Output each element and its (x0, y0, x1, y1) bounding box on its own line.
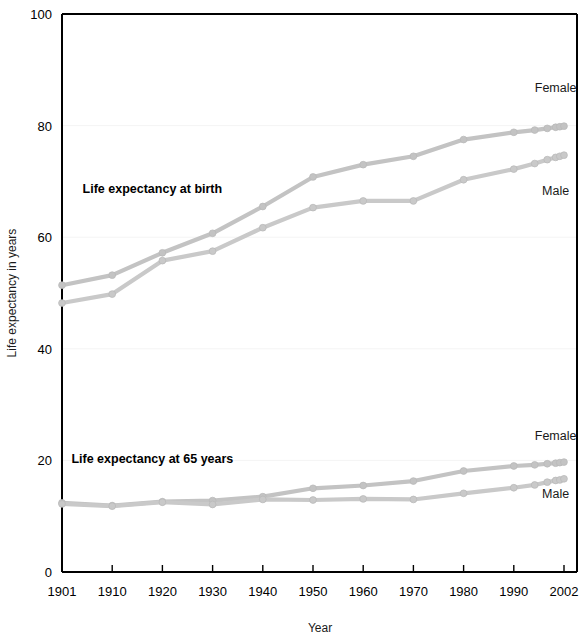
data-point (310, 204, 317, 211)
data-point (510, 484, 517, 491)
x-tick-label: 1940 (248, 584, 277, 599)
y-tick-label: 40 (38, 342, 52, 357)
data-point (460, 136, 467, 143)
data-point (561, 123, 568, 130)
chart-background (0, 0, 586, 641)
data-point (159, 257, 166, 264)
series-label-age65-male: Male (542, 487, 569, 501)
data-point (544, 479, 551, 486)
data-point (59, 282, 66, 289)
x-tick-label: 1950 (299, 584, 328, 599)
x-tick-label: 1920 (148, 584, 177, 599)
data-point (360, 496, 367, 503)
data-point (109, 503, 116, 510)
y-tick-label: 100 (30, 7, 52, 22)
y-tick-label: 60 (38, 230, 52, 245)
series-label-age65-female: Female (535, 429, 577, 443)
data-point (531, 160, 538, 167)
x-tick-label: 2002 (550, 584, 579, 599)
x-tick-label: 1980 (449, 584, 478, 599)
data-point (259, 496, 266, 503)
x-tick-label: 1960 (349, 584, 378, 599)
data-point (159, 249, 166, 256)
y-tick-label: 20 (38, 453, 52, 468)
data-point (410, 198, 417, 205)
data-point (410, 478, 417, 485)
life-expectancy-chart: 020406080100 190119101920193019401950196… (0, 0, 586, 641)
data-point (510, 129, 517, 136)
x-tick-label: 1970 (399, 584, 428, 599)
data-point (561, 152, 568, 159)
data-point (544, 460, 551, 467)
data-point (544, 156, 551, 163)
x-tick-label: 1990 (499, 584, 528, 599)
x-axis-title: Year (308, 621, 332, 635)
data-point (59, 300, 66, 307)
data-point (510, 463, 517, 470)
chart-canvas: 020406080100 190119101920193019401950196… (0, 0, 586, 641)
data-point (561, 475, 568, 482)
data-point (209, 248, 216, 255)
data-point (159, 499, 166, 506)
data-point (109, 272, 116, 279)
data-point (531, 482, 538, 489)
data-point (259, 203, 266, 210)
data-point (410, 153, 417, 160)
x-tick-label: 1930 (198, 584, 227, 599)
data-point (209, 230, 216, 237)
annotation-birth-group: Life expectancy at birth (83, 182, 223, 196)
annotation-age65-group: Life expectancy at 65 years (71, 452, 233, 466)
data-point (544, 125, 551, 132)
data-point (310, 174, 317, 181)
x-tick-label: 1910 (98, 584, 127, 599)
data-point (360, 482, 367, 489)
data-point (259, 224, 266, 231)
data-point (310, 485, 317, 492)
data-point (561, 459, 568, 466)
data-point (460, 468, 467, 475)
data-point (360, 161, 367, 168)
data-point (109, 291, 116, 298)
y-tick-label: 80 (38, 119, 52, 134)
data-point (209, 501, 216, 508)
data-point (510, 166, 517, 173)
series-label-birth-male: Male (542, 184, 569, 198)
data-point (460, 490, 467, 497)
data-point (410, 496, 417, 503)
x-tick-label: 1901 (48, 584, 77, 599)
data-point (360, 198, 367, 205)
y-tick-label: 0 (45, 565, 52, 580)
data-point (310, 497, 317, 504)
data-point (531, 127, 538, 134)
y-axis-title: Life expectancy in years (5, 229, 19, 358)
series-label-birth-female: Female (535, 81, 577, 95)
data-point (460, 176, 467, 183)
data-point (531, 461, 538, 468)
data-point (59, 501, 66, 508)
